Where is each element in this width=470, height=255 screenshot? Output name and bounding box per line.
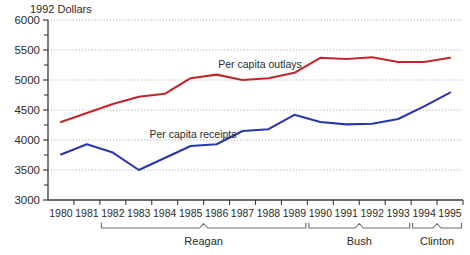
x-axis-tick-label: 1994: [412, 207, 436, 219]
x-axis-tick-label: 1980: [49, 207, 73, 219]
y-axis-tick-label: 6000: [14, 14, 40, 26]
x-axis-tick-label: 1990: [309, 207, 333, 219]
x-axis-tick-label: 1989: [283, 207, 307, 219]
x-axis-tick-label: 1983: [127, 207, 151, 219]
era-label: Bush: [347, 235, 372, 247]
y-axis-tick-label: 4000: [14, 134, 40, 146]
y-axis-tick-label: 3000: [14, 194, 40, 206]
y-axis-tick-label: 4500: [14, 104, 40, 116]
era-label: Clinton: [420, 235, 454, 247]
chart-svg: 3000350040004500500055006000 19801981198…: [0, 0, 470, 255]
chart-axis-title: 1992 Dollars: [30, 3, 92, 15]
x-axis-tick-label: 1985: [179, 207, 203, 219]
series-label-outlays: Per capita outlays: [218, 58, 301, 70]
x-axis-tick-label: 1992: [361, 207, 385, 219]
y-axis-tick-label: 5000: [14, 74, 40, 86]
x-axis-tick-label: 1995: [438, 207, 462, 219]
era-label: Reagan: [184, 235, 223, 247]
x-axis-tick-label: 1988: [257, 207, 281, 219]
x-axis-tick-label: 1984: [153, 207, 177, 219]
x-axis-tick-label: 1982: [101, 207, 125, 219]
y-axis-tick-label: 3500: [14, 164, 40, 176]
x-axis-tick-label: 1986: [205, 207, 229, 219]
x-axis-tick-label: 1981: [75, 207, 99, 219]
chart-container: 3000350040004500500055006000 19801981198…: [0, 0, 470, 255]
x-axis-tick-label: 1993: [386, 207, 410, 219]
x-axis-tick-label: 1987: [231, 207, 255, 219]
y-axis-tick-label: 5500: [14, 44, 40, 56]
series-label-receipts: Per capita receipts: [150, 128, 237, 140]
x-axis-tick-label: 1991: [335, 207, 359, 219]
